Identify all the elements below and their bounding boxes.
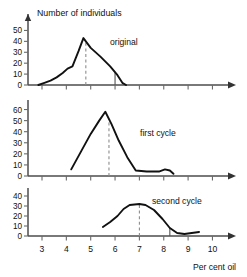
y-tick-label-20-panel-2: 20 <box>13 212 23 221</box>
y-tick-label-30-panel-1: 30 <box>13 139 23 148</box>
y-tick-label-10-panel-1: 10 <box>13 161 23 170</box>
y-axis-title: Number of individuals <box>37 8 122 18</box>
figure-container: Number of individuals01020304050original… <box>0 0 247 277</box>
y-tick-label-0-panel-2: 0 <box>17 232 22 241</box>
panel-first-cycle: 0102030405060 <box>13 100 236 181</box>
y-tick-label-10-panel-0: 10 <box>13 70 23 79</box>
y-tick-label-10-panel-2: 10 <box>13 222 23 231</box>
y-tick-label-50-panel-1: 50 <box>13 117 23 126</box>
x-axis-arrow-0 <box>228 82 236 89</box>
x-tick-label-8: 8 <box>161 244 166 254</box>
panel-second-cycle: 010203040 <box>13 188 236 241</box>
x-axis-arrow-1 <box>228 173 236 180</box>
x-tick-label-9: 9 <box>186 244 191 254</box>
y-axis-arrow <box>25 14 31 21</box>
y-tick-label-0-panel-1: 0 <box>17 172 22 181</box>
y-tick-label-30-panel-0: 30 <box>13 48 23 57</box>
x-tick-label-4: 4 <box>64 244 69 254</box>
three-panel-line-chart: Number of individuals01020304050original… <box>0 0 247 277</box>
y-tick-label-60-panel-1: 60 <box>13 106 23 115</box>
y-tick-label-40-panel-0: 40 <box>13 37 23 46</box>
x-tick-label-3: 3 <box>40 244 45 254</box>
y-tick-label-20-panel-1: 20 <box>13 150 23 159</box>
y-tick-label-20-panel-0: 20 <box>13 59 23 68</box>
panel-annotation-second-cycle: second cycle <box>152 196 202 206</box>
y-tick-label-0-panel-0: 0 <box>17 81 22 90</box>
panel-annotation-first-cycle: first cycle <box>140 128 176 138</box>
y-tick-label-40-panel-1: 40 <box>13 128 23 137</box>
x-tick-label-10: 10 <box>208 244 218 254</box>
x-tick-label-5: 5 <box>88 244 93 254</box>
y-tick-label-30-panel-2: 30 <box>13 202 23 211</box>
panel-original: 01020304050 <box>13 14 236 90</box>
y-tick-label-40-panel-2: 40 <box>13 192 23 201</box>
curve-first-cycle <box>71 112 173 174</box>
x-tick-label-6: 6 <box>113 244 118 254</box>
x-axis-title: Per cent oil <box>193 262 236 272</box>
panel-annotation-original: original <box>110 37 138 47</box>
y-tick-label-50-panel-0: 50 <box>13 26 23 35</box>
curve-second-cycle <box>103 204 199 234</box>
x-axis-arrow-2 <box>228 233 236 240</box>
x-tick-label-7: 7 <box>137 244 142 254</box>
